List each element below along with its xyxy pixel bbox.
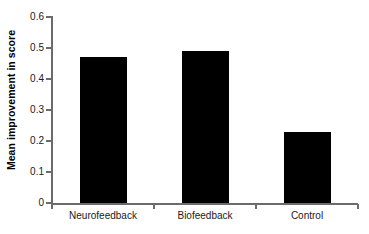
x-axis-line (51, 203, 358, 205)
y-axis-tick (46, 140, 51, 142)
y-axis-tick-label: 0.5 (18, 43, 44, 53)
bar (182, 51, 229, 203)
x-axis-category-label: Control (291, 211, 323, 221)
y-axis-tick (46, 47, 51, 49)
y-axis-tick-label: 0.3 (18, 105, 44, 115)
x-axis-tick (255, 204, 257, 209)
y-axis-tick-label: 0.1 (18, 167, 44, 177)
x-axis-tick (357, 204, 359, 209)
bar (284, 132, 331, 203)
y-axis-tick-label: 0.6 (18, 12, 44, 22)
y-axis-tick-label: 0 (18, 198, 44, 208)
plot-area (52, 17, 358, 203)
y-axis-tick (46, 16, 51, 18)
y-axis-tick (46, 202, 51, 204)
x-axis-tick (153, 204, 155, 209)
x-axis-tick (51, 204, 53, 209)
y-axis-tick (46, 78, 51, 80)
bar-chart: Mean improvement in score 00.10.20.30.40… (0, 0, 369, 234)
x-axis-category-label: Biofeedback (177, 211, 232, 221)
y-axis-tick (46, 109, 51, 111)
bar (80, 57, 127, 203)
y-axis-label-text: Mean improvement in score (5, 30, 17, 170)
y-axis-tick-label: 0.4 (18, 74, 44, 84)
y-axis-tick (46, 171, 51, 173)
x-axis-category-label: Neurofeedback (69, 211, 137, 221)
y-axis-tick-label: 0.2 (18, 136, 44, 146)
